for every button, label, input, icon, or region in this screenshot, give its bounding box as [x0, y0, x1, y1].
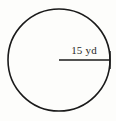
figure-canvas — [0, 0, 116, 121]
radius-measurement-label: 15 yd — [66, 44, 102, 57]
circle-radius-figure: 15 yd — [0, 0, 116, 121]
